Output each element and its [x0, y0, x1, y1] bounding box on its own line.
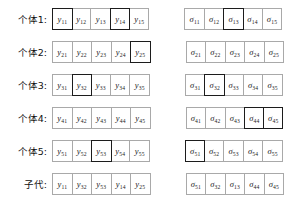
y-gene-cell[interactable]: y52	[72, 140, 93, 162]
y-gene-cell[interactable]: y51	[52, 140, 73, 162]
y-gene-cell[interactable]: y14	[111, 173, 132, 195]
y-symbol-subscript: 11	[61, 183, 67, 189]
y-gene-cell[interactable]: y15	[129, 8, 150, 30]
y-gene-cell[interactable]: y25	[130, 41, 151, 63]
individual-row: 个体5:y51y52y53y54y55σ51σ52σ53σ54σ55	[0, 139, 305, 163]
sigma-symbol-subscript: 15	[271, 18, 277, 24]
sigma-symbol-subscript: 45	[272, 117, 278, 123]
sigma-gene-cell[interactable]: σ54	[243, 140, 264, 162]
y-gene-cell[interactable]: y45	[130, 107, 151, 129]
y-gene-cell[interactable]: y32	[72, 74, 93, 96]
y-symbol-subscript: 32	[81, 84, 87, 90]
sigma-gene-cell[interactable]: σ23	[225, 41, 246, 63]
y-symbol: y51	[57, 146, 67, 155]
sigma-gene-cell[interactable]: σ12	[204, 8, 225, 30]
sigma-symbol: σ32	[210, 80, 220, 89]
y-gene-cell[interactable]: y54	[110, 140, 131, 162]
sigma-gene-cell[interactable]: σ33	[223, 74, 244, 96]
sigma-symbol: σ34	[248, 80, 258, 89]
sigma-symbol: σ55	[267, 146, 277, 155]
sigma-symbol-subscript: 11	[194, 18, 200, 24]
sigma-symbol: σ44	[249, 113, 259, 122]
y-gene-block: y21y22y23y24y25	[52, 41, 151, 63]
row-label-individual-1: 个体1:	[0, 12, 52, 26]
y-gene-cell[interactable]: y24	[111, 41, 132, 63]
sigma-gene-cell[interactable]: σ14	[242, 8, 263, 30]
sigma-gene-cell[interactable]: σ45	[263, 107, 284, 129]
y-gene-cell[interactable]: y33	[90, 74, 111, 96]
y-symbol: y53	[96, 179, 106, 188]
sigma-gene-cell[interactable]: σ51	[186, 173, 207, 195]
rows-container: 个体1:y11y12y13y14y15σ11σ12σ13σ14σ15个体2:y2…	[0, 0, 305, 214]
sigma-gene-block: σ21σ22σ23σ24σ25	[186, 41, 285, 63]
individual-row: 个体2:y21y22y23y24y25σ21σ22σ23σ24σ25	[0, 40, 305, 64]
sigma-symbol: σ51	[190, 146, 200, 155]
sigma-gene-cell[interactable]: σ32	[205, 173, 226, 195]
sigma-gene-cell[interactable]: σ32	[204, 74, 225, 96]
sigma-gene-cell[interactable]: σ41	[186, 107, 207, 129]
y-gene-cell[interactable]: y34	[110, 74, 131, 96]
sigma-gene-cell[interactable]: σ44	[244, 173, 265, 195]
y-symbol-subscript: 14	[120, 183, 126, 189]
y-gene-cell[interactable]: y53	[91, 140, 112, 162]
sigma-gene-cell[interactable]: σ35	[262, 74, 283, 96]
y-symbol-subscript: 14	[119, 18, 125, 24]
sigma-gene-cell[interactable]: σ31	[185, 74, 206, 96]
sigma-symbol-subscript: 22	[215, 51, 221, 57]
y-gene-cell[interactable]: y22	[72, 41, 93, 63]
y-gene-cell[interactable]: y25	[130, 173, 151, 195]
y-gene-cell[interactable]: y13	[90, 8, 111, 30]
y-gene-cell[interactable]: y53	[91, 173, 112, 195]
y-gene-cell[interactable]: y32	[72, 173, 93, 195]
sigma-gene-cell[interactable]: σ21	[186, 41, 207, 63]
y-gene-cell[interactable]: y12	[71, 8, 92, 30]
y-gene-cell[interactable]: y11	[52, 8, 73, 30]
sigma-symbol: σ45	[268, 113, 278, 122]
y-gene-cell[interactable]: y44	[111, 107, 132, 129]
sigma-gene-block: σ31σ32σ33σ34σ35	[185, 74, 283, 96]
sigma-gene-cell[interactable]: σ24	[244, 41, 265, 63]
sigma-gene-cell[interactable]: σ34	[243, 74, 264, 96]
sigma-gene-cell[interactable]: σ13	[225, 173, 246, 195]
y-gene-cell[interactable]: y43	[91, 107, 112, 129]
y-gene-cell[interactable]: y55	[129, 140, 150, 162]
y-gene-block: y11y32y53y14y25	[52, 173, 151, 195]
y-symbol-subscript: 24	[120, 51, 126, 57]
y-gene-cell[interactable]: y21	[52, 41, 73, 63]
crossover-diagram: 个体1:y11y12y13y14y15σ11σ12σ13σ14σ15个体2:y2…	[0, 0, 305, 214]
y-gene-cell[interactable]: y23	[91, 41, 112, 63]
sigma-gene-cell[interactable]: σ51	[185, 140, 206, 162]
individual-row: 个体3:y31y32y33y34y35σ31σ32σ33σ34σ35	[0, 73, 305, 97]
sigma-gene-block: σ11σ12σ13σ14σ15	[184, 8, 282, 30]
sigma-gene-cell[interactable]: σ25	[264, 41, 285, 63]
y-symbol: y11	[57, 179, 67, 188]
sigma-gene-cell[interactable]: σ55	[262, 140, 283, 162]
y-gene-cell[interactable]: y42	[72, 107, 93, 129]
y-gene-cell[interactable]: y31	[52, 74, 73, 96]
row-label-offspring: 子代:	[0, 177, 52, 191]
sigma-symbol: σ32	[210, 179, 220, 188]
sigma-gene-cell[interactable]: σ45	[264, 173, 285, 195]
y-gene-cell[interactable]: y41	[52, 107, 73, 129]
y-symbol-subscript: 21	[61, 51, 67, 57]
sigma-gene-cell[interactable]: σ13	[223, 8, 244, 30]
sigma-gene-cell[interactable]: σ52	[204, 140, 225, 162]
y-gene-cell[interactable]: y14	[110, 8, 131, 30]
sigma-gene-cell[interactable]: σ43	[225, 107, 246, 129]
individual-row: 个体4:y41y42y43y44y45σ41σ42σ43σ44σ45	[0, 106, 305, 130]
sigma-gene-cell[interactable]: σ42	[205, 107, 226, 129]
sigma-gene-cell[interactable]: σ15	[262, 8, 283, 30]
y-symbol-subscript: 25	[139, 183, 145, 189]
sigma-symbol: σ54	[248, 146, 258, 155]
sigma-gene-cell[interactable]: σ53	[223, 140, 244, 162]
sigma-gene-cell[interactable]: σ44	[244, 107, 265, 129]
y-gene-cell[interactable]: y35	[129, 74, 150, 96]
sigma-symbol-subscript: 23	[234, 51, 240, 57]
sigma-symbol-subscript: 44	[254, 183, 260, 189]
sigma-symbol: σ15	[267, 14, 277, 23]
sigma-symbol: σ44	[249, 179, 259, 188]
sigma-gene-cell[interactable]: σ22	[205, 41, 226, 63]
sigma-symbol-subscript: 42	[215, 117, 221, 123]
y-gene-cell[interactable]: y11	[52, 173, 73, 195]
sigma-gene-cell[interactable]: σ11	[184, 8, 205, 30]
